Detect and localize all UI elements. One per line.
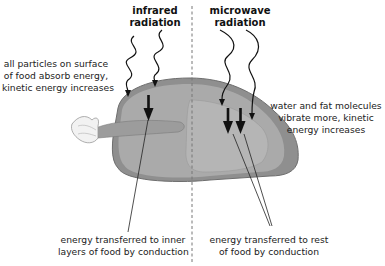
infrared-wave-2 [154,30,163,82]
chicken-leg-frill [71,117,98,143]
microwave-heading-line2: radiation [205,17,275,29]
surface-absorb-label: all particles on surface of food absorb … [2,58,110,94]
molecules-label-line2: vibrate more, kinetic [268,112,384,124]
infrared-conduction-arrow-shaft [147,95,150,109]
inner-conduction-line1: energy transferred to inner [58,234,188,246]
molecules-label-line3: energy increases [268,124,384,136]
molecules-label-line1: water and fat molecules [268,100,384,112]
inner-conduction-label: energy transferred to inner layers of fo… [58,234,188,258]
infrared-heading-line2: radiation [122,17,188,29]
surface-label-line3: kinetic energy increases [2,82,110,94]
inner-conduction-line2: layers of food by conduction [58,246,188,258]
rest-conduction-label: energy transferred to rest of food by co… [204,234,334,258]
microwave-arrow-2-shaft [239,108,242,122]
infrared-heading-line1: infrared [122,5,188,17]
microwave-heading: microwave radiation [205,5,275,29]
infrared-wave-1 [126,36,136,92]
rest-conduction-line1: energy transferred to rest [204,234,334,246]
rest-conduction-line2: of food by conduction [204,246,334,258]
microwave-heading-line1: microwave [205,5,275,17]
surface-label-line2: of food absorb energy, [2,70,110,82]
molecules-vibrate-label: water and fat molecules vibrate more, ki… [268,100,384,136]
surface-label-line1: all particles on surface [2,58,110,70]
infrared-heading: infrared radiation [122,5,188,29]
microwave-arrow-1-shaft [227,108,230,122]
